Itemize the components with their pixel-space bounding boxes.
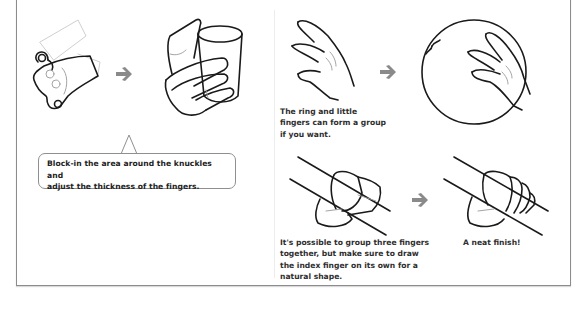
caption-grouped-fingers: The ring and little fingers can form a g… bbox=[280, 106, 386, 140]
tip-callout: Block-in the area around the knuckles an… bbox=[38, 153, 236, 189]
hand-grouped-fingers bbox=[290, 14, 360, 102]
step-arrow-icon bbox=[412, 193, 430, 207]
step-arrow-icon bbox=[116, 67, 134, 81]
caption-neat-finish: A neat finish! bbox=[463, 237, 521, 248]
callout-pointer bbox=[121, 135, 137, 154]
knuckle-block-in-sketch bbox=[28, 14, 108, 114]
caption-line: natural shape. bbox=[280, 271, 429, 282]
step-arrow-icon bbox=[380, 65, 398, 79]
hand-holding-cup bbox=[150, 14, 254, 122]
caption-line: the index finger on its own for a bbox=[280, 260, 429, 271]
callout-line: Block-in the area around the knuckles an… bbox=[47, 158, 227, 181]
caption-line: The ring and little bbox=[280, 106, 386, 117]
caption-line: It's possible to group three fingers bbox=[280, 237, 429, 248]
callout-line: adjust the thickness of the fingers. bbox=[47, 181, 227, 193]
caption-group-three-fingers: It's possible to group three fingers tog… bbox=[280, 237, 429, 282]
caption-line: fingers can form a group bbox=[280, 117, 386, 128]
hand-on-ball bbox=[418, 16, 568, 130]
panel-divider bbox=[274, 10, 275, 278]
caption-line: together, but make sure to draw bbox=[280, 248, 429, 259]
caption-line: A neat finish! bbox=[463, 237, 521, 248]
fist-finished bbox=[444, 155, 554, 235]
fist-grouped-fingers bbox=[290, 155, 400, 235]
caption-line: if you want. bbox=[280, 129, 386, 140]
